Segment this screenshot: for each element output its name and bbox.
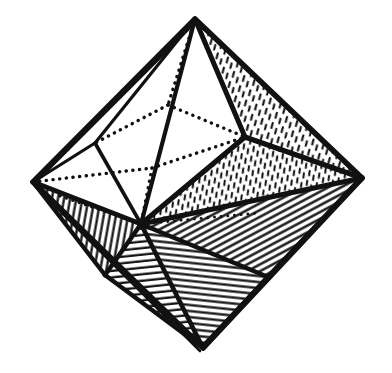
octahedron-crystal-illustration <box>0 0 392 373</box>
figure-container <box>0 0 392 373</box>
